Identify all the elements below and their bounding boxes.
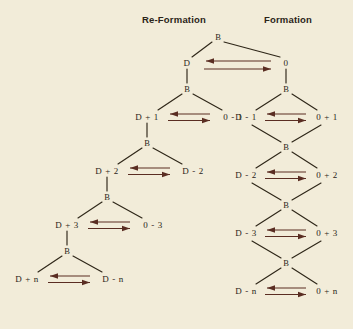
right-row-3-right-label: 0 + 3 xyxy=(316,228,338,238)
header-re-formation: Re-Formation xyxy=(142,14,206,25)
left-row-2-left-label: D + 2 xyxy=(95,166,119,176)
right-branch-node-1: B xyxy=(283,84,289,94)
left-row-4-right-label: D - n xyxy=(102,274,124,284)
diagram-canvas: Re-Formation Formation B D 0 B D + 1 0 -… xyxy=(0,0,353,329)
right-row-1-right-label: 0 + 1 xyxy=(316,112,338,122)
right-row-1-left-label: D - 1 xyxy=(235,112,257,122)
right-row-4-right-label: 0 + n xyxy=(316,286,338,296)
left-row-1-left-label: D + 1 xyxy=(135,112,159,122)
right-row-4-left-label: D - n xyxy=(235,286,257,296)
left-branch-node-1: B xyxy=(184,84,190,94)
left-branch-node-2: B xyxy=(144,138,150,148)
right-branch-node-4: B xyxy=(283,258,289,268)
left-row-3-left-label: D + 3 xyxy=(55,220,79,230)
right-row-2-left-label: D - 2 xyxy=(235,170,257,180)
left-row-3-right-label: 0 - 3 xyxy=(143,220,163,230)
right-branch-node-2: B xyxy=(283,142,289,152)
left-branch-node-4: B xyxy=(64,246,70,256)
right-branch-node-3: B xyxy=(283,200,289,210)
left-row-4-left-label: D + n xyxy=(15,274,39,284)
root-branch-node: B xyxy=(215,32,221,42)
right-row-3-left-label: D - 3 xyxy=(235,228,257,238)
header-formation: Formation xyxy=(264,14,312,25)
left-tree-top-node: D xyxy=(183,58,190,68)
right-tree-top-node: 0 xyxy=(283,58,288,68)
left-branch-node-3: B xyxy=(104,192,110,202)
right-row-2-right-label: 0 + 2 xyxy=(316,170,338,180)
diagram-background xyxy=(0,0,353,329)
equilibrium-tree-diagram: Re-Formation Formation B D 0 B D + 1 0 -… xyxy=(0,0,353,329)
left-row-2-right-label: D - 2 xyxy=(182,166,204,176)
